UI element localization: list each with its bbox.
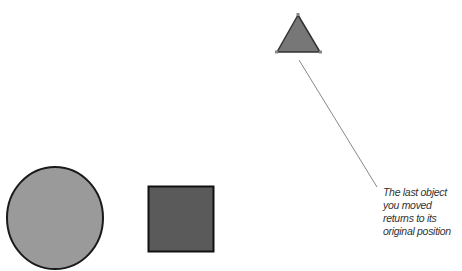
callout-leader-line <box>299 60 377 187</box>
caption-line-1: The last object <box>383 186 462 199</box>
triangle-shape[interactable] <box>277 15 320 52</box>
callout-caption: The last object you moved returns to its… <box>383 186 462 238</box>
caption-line-4: original position <box>383 225 462 238</box>
caption-line-3: returns to its <box>383 212 462 225</box>
square-shape[interactable] <box>149 187 214 252</box>
caption-line-2: you moved <box>383 199 462 212</box>
circle-shape[interactable] <box>7 167 103 269</box>
